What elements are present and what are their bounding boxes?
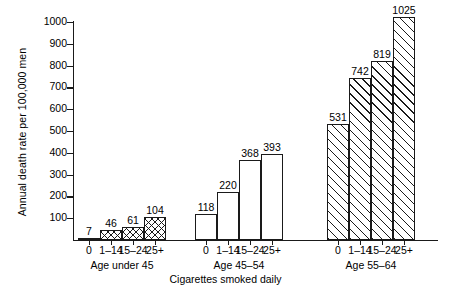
y-tick-mark (67, 218, 73, 219)
y-tick-mark (67, 109, 73, 110)
bar-value-label: 61 (127, 214, 139, 226)
y-tick-label: 500 (27, 124, 67, 136)
y-tick-label: 200 (27, 189, 67, 201)
y-tick-mark (67, 22, 73, 23)
category-tick-label: 25+ (263, 244, 281, 256)
category-tick-label: 25+ (395, 244, 413, 256)
bar (122, 227, 144, 240)
category-tick-label: 0 (86, 244, 92, 256)
bar-value-label: 819 (373, 48, 391, 60)
bar (393, 17, 415, 240)
y-tick-mark (67, 44, 73, 45)
category-tick-label: 0 (335, 244, 341, 256)
y-tick-label: 400 (27, 146, 67, 158)
bar-value-label: 742 (351, 65, 369, 77)
y-tick-label: 900 (27, 37, 67, 49)
bar (261, 154, 283, 240)
bar-value-label: 1025 (392, 4, 415, 16)
y-tick-mark (67, 153, 73, 154)
bar (327, 124, 349, 240)
bar-value-label: 531 (329, 111, 347, 123)
y-tick-mark (67, 175, 73, 176)
group-label: Age 55–64 (346, 259, 397, 271)
y-tick-label: 1000 (27, 15, 67, 27)
bar (144, 217, 166, 240)
bar (100, 230, 122, 240)
bar (195, 214, 217, 240)
y-tick-mark (67, 131, 73, 132)
category-tick-label: 25+ (146, 244, 164, 256)
x-axis-label: Cigarettes smoked daily (0, 273, 451, 285)
group-label: Age under 45 (90, 259, 153, 271)
group-label: Age 45–54 (214, 259, 265, 271)
bar-value-label: 220 (219, 179, 237, 191)
y-tick-mark (67, 66, 73, 67)
category-tick-label: 15–24 (235, 244, 264, 256)
bar (371, 61, 393, 240)
bar-chart: Annual death rate per 100,000 men 100200… (0, 0, 451, 294)
y-tick-label: 300 (27, 168, 67, 180)
bar-value-label: 104 (146, 204, 164, 216)
category-tick-label: 15–24 (367, 244, 396, 256)
y-tick-label: 600 (27, 102, 67, 114)
bar-value-label: 368 (241, 147, 259, 159)
bar (239, 160, 261, 240)
bar-value-label: 393 (263, 141, 281, 153)
bar-value-label: 118 (198, 201, 215, 213)
y-tick-label: 800 (27, 59, 67, 71)
y-tick-mark (67, 87, 73, 88)
y-tick-label: 100 (27, 211, 67, 223)
category-tick-label: 0 (203, 244, 209, 256)
bar (349, 78, 371, 240)
bar (217, 192, 239, 240)
y-tick-label: 700 (27, 80, 67, 92)
y-tick-mark (67, 196, 73, 197)
category-tick-label: 15–24 (118, 244, 147, 256)
x-axis-line (73, 240, 438, 241)
y-axis-line (73, 21, 74, 241)
bar-value-label: 7 (86, 225, 92, 237)
bar-value-label: 46 (105, 217, 117, 229)
